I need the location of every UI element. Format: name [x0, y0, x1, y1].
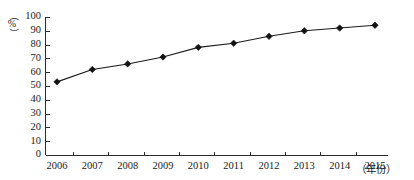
x-axis-tick-label: 2014 [329, 160, 351, 171]
x-axis-tick-label: 2011 [223, 160, 244, 171]
y-axis-tick-label: 90 [31, 24, 42, 35]
y-axis-tick-label: 50 [31, 79, 42, 90]
data-point-marker [124, 61, 130, 67]
x-axis-unit-label: （年份） [356, 163, 396, 175]
data-point-marker [372, 22, 378, 28]
data-point-marker [301, 28, 307, 34]
x-axis-tick-label: 2006 [47, 160, 68, 171]
line-chart: （ % ） 0102030405060708090100 20062007200… [0, 0, 414, 180]
data-point-marker [89, 66, 95, 72]
y-axis-tick-label: 40 [31, 93, 42, 104]
y-axis-tick-label: 0 [36, 148, 41, 159]
y-axis-tick-label: 30 [31, 107, 42, 118]
y-axis-tick-label: 80 [31, 38, 42, 49]
x-axis-tick-label: 2008 [117, 160, 138, 171]
data-point-marker [195, 44, 201, 50]
data-point-marker [230, 40, 236, 46]
y-axis-tick-marks [46, 18, 50, 156]
x-axis-tick-label: 2012 [259, 160, 280, 171]
y-axis-tick-label: 10 [31, 135, 42, 146]
chart-canvas: 0102030405060708090100 20062007200820092… [0, 0, 414, 180]
x-axis-tick-label: 2010 [188, 160, 209, 171]
x-axis-tick-label: 2007 [82, 160, 103, 171]
y-axis-tick-label: 60 [31, 66, 42, 77]
y-axis-tick-labels: 0102030405060708090100 [25, 10, 41, 159]
x-axis-tick-label: 2009 [153, 160, 174, 171]
series-markers [54, 22, 378, 85]
x-axis-tick-label: 2013 [294, 160, 315, 171]
series-line-path [57, 25, 375, 82]
y-axis-tick-label: 100 [25, 10, 41, 21]
x-axis-tick-marks [74, 152, 357, 156]
data-point-marker [336, 25, 342, 31]
y-axis-tick-label: 70 [31, 52, 42, 63]
data-point-marker [266, 33, 272, 39]
y-axis-tick-label: 20 [31, 121, 42, 132]
x-axis-tick-labels: 2006200720082009201020112012201320142015 [47, 160, 386, 171]
data-point-marker [160, 54, 166, 60]
data-point-marker [54, 79, 60, 85]
